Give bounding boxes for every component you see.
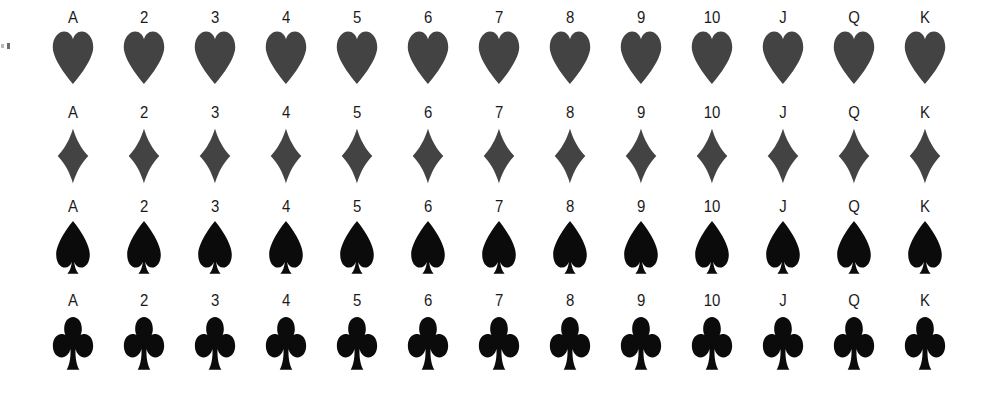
card-2-of-spades[interactable]: 2: [112, 197, 176, 276]
diamond-icon: [411, 128, 445, 184]
card-k-of-clubs[interactable]: K: [893, 291, 957, 372]
card-j-of-clubs[interactable]: J: [751, 291, 815, 372]
card-10-of-diamonds[interactable]: 10: [680, 103, 744, 184]
rank-label: J: [755, 197, 811, 217]
rank-label: 8: [542, 291, 598, 311]
card-3-of-spades[interactable]: 3: [183, 197, 247, 276]
club-icon: [478, 316, 520, 372]
rank-label: 10: [684, 103, 740, 123]
card-10-of-hearts[interactable]: 10: [680, 8, 744, 84]
card-9-of-spades[interactable]: 9: [609, 197, 673, 276]
rank-label: K: [897, 291, 953, 311]
spade-icon: [692, 220, 732, 276]
card-9-of-hearts[interactable]: 9: [609, 8, 673, 84]
card-k-of-hearts[interactable]: K: [893, 8, 957, 84]
card-4-of-diamonds[interactable]: 4: [254, 103, 318, 184]
card-k-of-diamonds[interactable]: K: [893, 103, 957, 184]
club-icon: [549, 316, 591, 372]
card-a-of-diamonds[interactable]: A: [41, 103, 105, 184]
rank-label: Q: [826, 8, 882, 28]
suit-row-hearts: A2345678910JQK: [0, 8, 995, 98]
rank-label: 3: [187, 103, 243, 123]
rank-label: 7: [471, 197, 527, 217]
card-6-of-diamonds[interactable]: 6: [396, 103, 460, 184]
spade-icon: [337, 220, 377, 276]
rank-label: 4: [258, 8, 314, 28]
rank-label: 4: [258, 103, 314, 123]
spade-icon: [621, 220, 661, 276]
rank-label: 2: [116, 197, 172, 217]
card-2-of-diamonds[interactable]: 2: [112, 103, 176, 184]
card-a-of-clubs[interactable]: A: [41, 291, 105, 372]
rank-label: 10: [684, 197, 740, 217]
rank-label: J: [755, 103, 811, 123]
card-j-of-spades[interactable]: J: [751, 197, 815, 276]
card-5-of-spades[interactable]: 5: [325, 197, 389, 276]
card-3-of-hearts[interactable]: 3: [183, 8, 247, 84]
card-8-of-hearts[interactable]: 8: [538, 8, 602, 84]
spade-icon: [408, 220, 448, 276]
card-7-of-hearts[interactable]: 7: [467, 8, 531, 84]
card-8-of-diamonds[interactable]: 8: [538, 103, 602, 184]
card-3-of-clubs[interactable]: 3: [183, 291, 247, 372]
card-8-of-clubs[interactable]: 8: [538, 291, 602, 372]
rank-label: 9: [613, 291, 669, 311]
card-5-of-clubs[interactable]: 5: [325, 291, 389, 372]
card-7-of-clubs[interactable]: 7: [467, 291, 531, 372]
heart-icon: [619, 30, 663, 84]
spade-icon: [905, 220, 945, 276]
card-q-of-clubs[interactable]: Q: [822, 291, 886, 372]
rank-label: 9: [613, 103, 669, 123]
rank-label: 5: [329, 291, 385, 311]
rank-label: 7: [471, 291, 527, 311]
heart-icon: [264, 30, 308, 84]
card-2-of-hearts[interactable]: 2: [112, 8, 176, 84]
card-j-of-hearts[interactable]: J: [751, 8, 815, 84]
card-j-of-diamonds[interactable]: J: [751, 103, 815, 184]
rank-label: 3: [187, 8, 243, 28]
card-8-of-spades[interactable]: 8: [538, 197, 602, 276]
card-7-of-spades[interactable]: 7: [467, 197, 531, 276]
card-k-of-spades[interactable]: K: [893, 197, 957, 276]
heart-icon: [548, 30, 592, 84]
card-6-of-hearts[interactable]: 6: [396, 8, 460, 84]
rank-label: 2: [116, 291, 172, 311]
heart-icon: [761, 30, 805, 84]
spade-icon: [266, 220, 306, 276]
card-4-of-hearts[interactable]: 4: [254, 8, 318, 84]
heart-icon: [903, 30, 947, 84]
card-9-of-clubs[interactable]: 9: [609, 291, 673, 372]
rank-label: 7: [471, 103, 527, 123]
club-icon: [194, 316, 236, 372]
diamond-icon: [837, 128, 871, 184]
card-3-of-diamonds[interactable]: 3: [183, 103, 247, 184]
heart-icon: [335, 30, 379, 84]
rank-label: 6: [400, 291, 456, 311]
card-7-of-diamonds[interactable]: 7: [467, 103, 531, 184]
club-icon: [265, 316, 307, 372]
heart-icon: [51, 30, 95, 84]
rank-label: 6: [400, 8, 456, 28]
card-4-of-spades[interactable]: 4: [254, 197, 318, 276]
card-a-of-hearts[interactable]: A: [41, 8, 105, 84]
card-a-of-spades[interactable]: A: [41, 197, 105, 276]
card-q-of-spades[interactable]: Q: [822, 197, 886, 276]
rank-label: A: [45, 103, 101, 123]
spade-icon: [834, 220, 874, 276]
card-4-of-clubs[interactable]: 4: [254, 291, 318, 372]
heart-icon: [832, 30, 876, 84]
card-10-of-spades[interactable]: 10: [680, 197, 744, 276]
rank-label: Q: [826, 291, 882, 311]
card-10-of-clubs[interactable]: 10: [680, 291, 744, 372]
card-6-of-clubs[interactable]: 6: [396, 291, 460, 372]
card-9-of-diamonds[interactable]: 9: [609, 103, 673, 184]
rank-label: Q: [826, 197, 882, 217]
card-q-of-diamonds[interactable]: Q: [822, 103, 886, 184]
card-q-of-hearts[interactable]: Q: [822, 8, 886, 84]
card-5-of-hearts[interactable]: 5: [325, 8, 389, 84]
card-2-of-clubs[interactable]: 2: [112, 291, 176, 372]
card-6-of-spades[interactable]: 6: [396, 197, 460, 276]
diamond-icon: [766, 128, 800, 184]
diamond-icon: [269, 128, 303, 184]
card-5-of-diamonds[interactable]: 5: [325, 103, 389, 184]
